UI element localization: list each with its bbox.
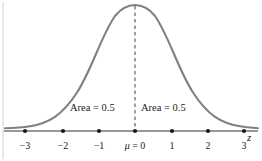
tick-label-minus-3: −3 xyxy=(13,140,37,151)
area-label-left: Area = 0.5 xyxy=(70,102,115,114)
tick-label-minus-1: −1 xyxy=(87,140,111,151)
tick-dot xyxy=(133,129,137,133)
curve-canvas xyxy=(0,0,262,161)
tick-label-3: 3 xyxy=(232,140,256,151)
axis-variable-label: z xyxy=(247,131,251,143)
normal-distribution-figure: Area = 0.5 Area = 0.5 −3 −2 −1 μ = 0 1 2… xyxy=(0,0,262,161)
tick-label-2: 2 xyxy=(196,140,220,151)
tick-label-1: 1 xyxy=(160,140,184,151)
area-label-right: Area = 0.5 xyxy=(141,102,186,114)
tick-dot xyxy=(23,129,27,133)
tick-dot xyxy=(170,129,174,133)
mean-equals-zero: = 0 xyxy=(130,140,146,151)
tick-dot xyxy=(61,129,65,133)
tick-label-mean: μ = 0 xyxy=(117,140,153,151)
normal-curve-path xyxy=(5,5,258,128)
tick-dot xyxy=(206,129,210,133)
tick-dot xyxy=(242,129,246,133)
tick-label-minus-2: −2 xyxy=(51,140,75,151)
tick-dot xyxy=(97,129,101,133)
